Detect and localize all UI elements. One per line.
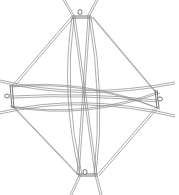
structure-diagram: [0, 0, 179, 195]
left-hub: [5, 85, 15, 108]
pole-frame-drawing: [0, 0, 179, 195]
